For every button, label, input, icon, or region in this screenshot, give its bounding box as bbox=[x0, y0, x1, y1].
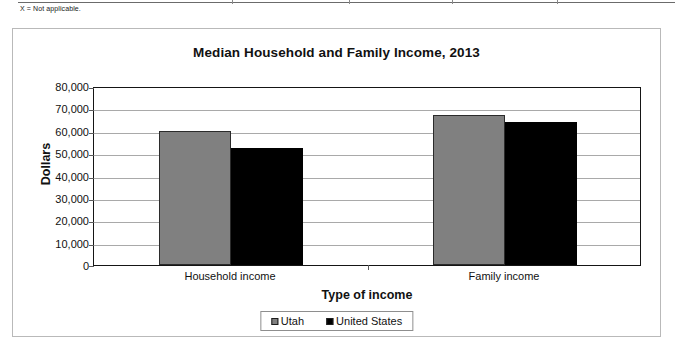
y-axis-tick bbox=[89, 178, 94, 179]
y-axis-tick bbox=[89, 245, 94, 246]
x-axis-tick-label: Family income bbox=[469, 270, 540, 282]
legend-label: United States bbox=[336, 315, 402, 327]
bar-utah-household-income bbox=[159, 131, 231, 265]
y-axis-tick-label: 30,000 bbox=[29, 193, 89, 205]
legend-swatch-icon bbox=[326, 318, 333, 325]
y-axis-tick bbox=[89, 110, 94, 111]
y-axis-tick bbox=[89, 155, 94, 156]
y-axis-tick-label: 70,000 bbox=[29, 103, 89, 115]
y-axis-tick-label: 80,000 bbox=[29, 81, 89, 93]
table-horizontal-rule bbox=[18, 2, 675, 3]
y-axis-tick-label: 60,000 bbox=[29, 126, 89, 138]
table-rule-remnant: X = Not applicable. bbox=[0, 0, 675, 22]
legend-item-united-states[interactable]: United States bbox=[326, 315, 402, 327]
bar-united-states-family-income bbox=[505, 122, 577, 265]
plot-area bbox=[93, 87, 641, 266]
y-axis-tick-label: 0 bbox=[29, 260, 89, 272]
y-axis-tick-labels: 010,00020,00030,00040,00050,00060,00070,… bbox=[23, 87, 89, 266]
legend-item-utah[interactable]: Utah bbox=[271, 315, 304, 327]
bar-utah-family-income bbox=[433, 115, 505, 265]
chart-container: Median Household and Family Income, 2013… bbox=[12, 28, 661, 337]
chart-legend: UtahUnited States bbox=[260, 311, 413, 331]
table-column-tick bbox=[349, 0, 350, 4]
y-axis-tick bbox=[89, 133, 94, 134]
table-column-tick bbox=[452, 0, 453, 4]
table-column-tick bbox=[232, 0, 233, 4]
y-axis-tick-label: 20,000 bbox=[29, 215, 89, 227]
y-axis-tick-label: 50,000 bbox=[29, 148, 89, 160]
bar-united-states-household-income bbox=[231, 148, 303, 265]
x-axis-tick-labels: Household incomeFamily income bbox=[93, 270, 641, 286]
y-axis-tick-label: 10,000 bbox=[29, 238, 89, 250]
y-axis-tick bbox=[89, 200, 94, 201]
gridline bbox=[94, 110, 640, 111]
x-axis-title: Type of income bbox=[93, 288, 641, 302]
y-axis-tick bbox=[89, 88, 94, 89]
table-footnote: X = Not applicable. bbox=[20, 5, 81, 12]
chart-title: Median Household and Family Income, 2013 bbox=[13, 45, 660, 60]
y-axis-tick bbox=[89, 222, 94, 223]
table-column-tick bbox=[557, 0, 558, 4]
legend-swatch-icon bbox=[271, 318, 278, 325]
y-axis-tick bbox=[89, 266, 94, 267]
legend-label: Utah bbox=[281, 315, 304, 327]
x-axis-tick-label: Household income bbox=[184, 270, 275, 282]
y-axis-tick-label: 40,000 bbox=[29, 171, 89, 183]
